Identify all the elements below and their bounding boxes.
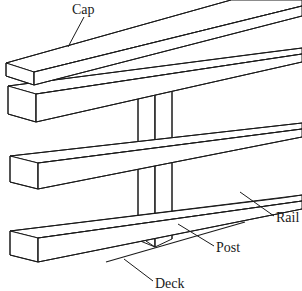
label-deck: Deck <box>155 276 185 291</box>
railing-diagram: Cap Rail Post Deck <box>0 0 302 291</box>
deck-leader-line <box>124 259 153 281</box>
label-cap: Cap <box>72 2 95 17</box>
railing-isometric-drawing: Cap Rail Post Deck <box>0 0 302 291</box>
label-post: Post <box>216 240 240 255</box>
label-rail: Rail <box>276 210 299 225</box>
